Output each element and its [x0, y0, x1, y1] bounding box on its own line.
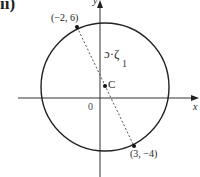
point-a-label: (−2, 6)	[51, 12, 78, 23]
y-axis-arrow-icon	[97, 0, 103, 8]
point-b-label: (3, −4)	[130, 148, 157, 159]
y-axis-label: y	[93, 0, 97, 6]
center-point	[103, 84, 107, 88]
part-label: ii)	[0, 0, 15, 14]
handwritten-subscript: 1	[122, 58, 127, 69]
point-a	[75, 25, 79, 29]
handwritten-mark: ɔ·ζ	[104, 46, 119, 62]
origin-label: 0	[88, 101, 93, 112]
x-axis-label: x	[193, 101, 197, 112]
center-label: C	[108, 78, 115, 90]
circle-diagram	[0, 0, 200, 177]
